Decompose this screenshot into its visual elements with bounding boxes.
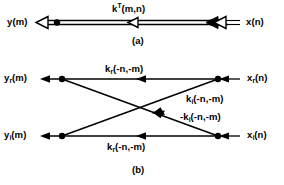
panel-a-output-label: y(m)	[7, 17, 27, 27]
branch-label-diagonal-lower-args: (-n,-m)	[191, 111, 221, 122]
node-top-right-dot	[215, 76, 221, 82]
branch-top-horizontal-arrowhead-icon	[136, 75, 146, 83]
node-top-left-dot	[59, 76, 65, 82]
branch-label-diagonal-upper: ki(-n,-m)	[186, 94, 224, 104]
branch-label-diagonal-lower: -ki(-n,-m)	[180, 112, 221, 122]
node-label-x-r-subscript: r	[252, 77, 255, 84]
panel-a-caption: (a)	[132, 36, 144, 46]
branch-label-top-horizontal-args: (-n,-m)	[113, 63, 143, 74]
branch-label-bottom-horizontal-args: (-n,-m)	[115, 141, 145, 152]
node-label-y-r: yr(m)	[4, 73, 27, 83]
flow-graph-canvas	[0, 0, 284, 185]
branch-label-bottom-horizontal: kr(-n,-m)	[107, 142, 145, 152]
node-label-x-i-args: (n)	[254, 129, 266, 140]
branch-label-top-horizontal-subscript: r	[110, 68, 113, 75]
panel-a-graphics	[36, 17, 240, 29]
panel-a-left-arrowhead-icon	[36, 17, 48, 29]
node-label-y-i: yi(m)	[4, 130, 26, 140]
panel-a-input-label: x(n)	[246, 17, 264, 27]
branch-label-diagonal-lower-base: k	[183, 111, 188, 122]
node-bottom-right-dot	[215, 133, 221, 139]
panel-a-left-node	[54, 19, 60, 25]
branch-bottom-left-terminal-arrowhead-icon	[40, 132, 50, 140]
panel-a-branch-label: kT(m,n)	[112, 4, 145, 14]
panel-a-input-label-text: x(n)	[246, 16, 264, 27]
panel-a-branch-label-args: (m,n)	[122, 3, 146, 14]
signal-flow-graph-figure: y(m) x(n) kT(m,n) (a) yr(m) yi(m) xr(n) …	[0, 0, 284, 185]
panel-a-output-label-text: y(m)	[7, 16, 27, 27]
branch-label-diagonal-lower-subscript: i	[189, 116, 191, 123]
panel-b-graphics	[40, 75, 240, 140]
panel-a-branch-label-superscript: T	[117, 2, 121, 9]
branch-top-left-terminal-arrowhead-icon	[40, 75, 50, 83]
branch-label-top-horizontal: kr(-n,-m)	[105, 64, 143, 74]
panel-b-caption: (b)	[132, 165, 144, 175]
panel-a-center-arrowhead-icon	[128, 18, 138, 28]
node-label-y-r-args: (m)	[12, 72, 27, 83]
node-label-x-i: xi(n)	[247, 130, 267, 140]
branch-bottom-horizontal-arrowhead-icon	[136, 132, 146, 140]
branch-label-bottom-horizontal-subscript: r	[112, 146, 115, 153]
branch-label-diagonal-upper-args: (-n,-m)	[193, 93, 223, 104]
node-label-x-r: xr(n)	[247, 73, 268, 83]
node-label-y-r-subscript: r	[9, 77, 12, 84]
node-bottom-left-dot	[59, 133, 65, 139]
node-label-x-r-args: (n)	[255, 72, 267, 83]
node-label-y-i-args: (m)	[11, 129, 26, 140]
